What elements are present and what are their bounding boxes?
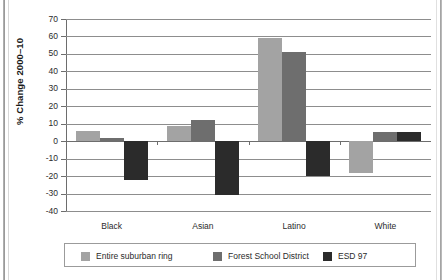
y-axis-tick-label: 70 xyxy=(32,15,58,24)
y-axis-title: % Change 2000–10 xyxy=(14,17,25,147)
y-axis-tick-label: -30 xyxy=(32,189,58,198)
legend-swatch-icon xyxy=(213,252,222,261)
page-border-left xyxy=(3,0,5,280)
y-axis-tick-label: 30 xyxy=(32,84,58,93)
y-axis-tick xyxy=(61,36,66,37)
y-axis-tick-label: 20 xyxy=(32,102,58,111)
legend-swatch-icon xyxy=(81,252,90,261)
y-axis-tick xyxy=(61,54,66,55)
category-axis-tick xyxy=(157,141,158,145)
bar xyxy=(373,132,397,141)
category-label-white: White xyxy=(340,221,430,231)
y-axis-tick xyxy=(61,194,66,195)
legend-swatch-icon xyxy=(323,252,332,261)
y-axis-tick xyxy=(61,159,66,160)
y-axis-tick-label: 40 xyxy=(32,67,58,76)
legend-label: ESD 97 xyxy=(338,251,367,261)
gridline xyxy=(66,106,431,107)
y-axis-tick-label: -10 xyxy=(32,154,58,163)
category-axis-tick xyxy=(340,141,341,145)
bar xyxy=(282,52,306,141)
y-axis-tick xyxy=(61,211,66,212)
y-axis-tick xyxy=(61,89,66,90)
y-axis-tick xyxy=(61,19,66,20)
y-axis-tick-label: -20 xyxy=(32,172,58,181)
gridline xyxy=(66,36,431,37)
legend-item[interactable]: ESD 97 xyxy=(323,250,367,262)
gridline xyxy=(66,194,431,195)
legend-item[interactable]: Forest School District xyxy=(213,250,309,262)
bar xyxy=(215,141,239,195)
page-border-right-inner xyxy=(436,0,437,280)
category-label-asian: Asian xyxy=(158,221,248,231)
gridline xyxy=(66,211,431,212)
bar xyxy=(258,38,282,141)
category-label-black: Black xyxy=(67,221,157,231)
bar xyxy=(397,132,421,141)
category-axis-tick xyxy=(249,141,250,145)
y-axis-tick xyxy=(61,106,66,107)
bar xyxy=(124,141,148,179)
y-axis-tick-label: 10 xyxy=(32,119,58,128)
y-axis-tick xyxy=(61,176,66,177)
bar xyxy=(167,126,191,141)
y-axis-tick xyxy=(61,71,66,72)
gridline xyxy=(66,54,431,55)
page-border-left-inner xyxy=(8,0,9,280)
gridline xyxy=(66,89,431,90)
y-axis-tick-label: 0 xyxy=(32,137,58,146)
gridline xyxy=(66,159,431,160)
y-axis-tick-label: -40 xyxy=(32,207,58,216)
legend-item[interactable]: Entire suburban ring xyxy=(81,250,173,262)
bar xyxy=(306,141,330,176)
category-label-latino: Latino xyxy=(249,221,339,231)
bar xyxy=(349,141,373,172)
y-axis-tick-labels: 706050403020100-10-20-30-40 xyxy=(28,0,58,280)
gridline xyxy=(66,71,431,72)
legend-label: Forest School District xyxy=(228,251,309,261)
legend-label: Entire suburban ring xyxy=(96,251,173,261)
gridline xyxy=(66,124,431,125)
chart-page: % Change 2000–10 706050403020100-10-20-3… xyxy=(0,0,448,280)
plot-area xyxy=(66,19,431,211)
y-axis-tick-label: 60 xyxy=(32,32,58,41)
y-axis-tick xyxy=(61,141,66,142)
page-border-right xyxy=(440,0,442,280)
gridline xyxy=(66,176,431,177)
bar xyxy=(100,138,124,141)
bar xyxy=(76,131,100,141)
chart-legend: Entire suburban ringForest School Distri… xyxy=(64,243,416,267)
y-axis-tick xyxy=(61,124,66,125)
y-axis-tick-label: 50 xyxy=(32,49,58,58)
bar xyxy=(191,120,215,141)
gridline xyxy=(66,19,431,20)
